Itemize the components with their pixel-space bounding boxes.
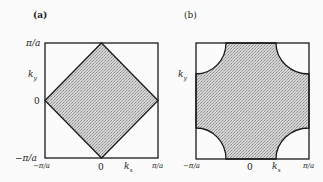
ylabel-a: ky [28,70,37,81]
figure-canvas [0,0,323,182]
xtick-zero-a: 0 [98,163,104,172]
xlabel-b: kx [272,162,281,173]
ytick-zero-a: 0 [34,97,40,106]
panel-a [45,43,158,158]
panel-b [196,43,309,159]
ylabel-b: ky [178,70,187,81]
fermi-surface-diamond [45,43,158,158]
xtick-left-b: −π/a [183,163,200,170]
xtick-right-b: π/a [303,163,314,170]
xtick-zero-b: 0 [247,163,253,172]
ytick-top-a: π/a [26,39,40,48]
xlabel-a: kx [124,162,133,173]
xtick-left-a: −π/a [33,163,50,170]
xtick-right-a: π/a [152,163,163,170]
panel-label-a: (a) [33,11,47,20]
fermi-surface-filled-region [196,43,309,159]
panel-label-b: (b) [184,11,197,20]
